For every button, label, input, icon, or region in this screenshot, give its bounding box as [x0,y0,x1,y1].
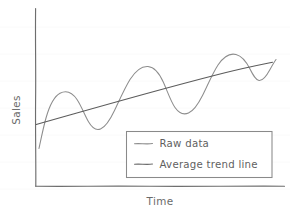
legend: Raw data Average trend line [127,132,273,178]
legend-label-raw-data: Raw data [160,138,210,149]
legend-label-trend-line: Average trend line [160,159,258,170]
chart-container: Raw data Average trend line Sales Time [0,0,290,211]
chart-canvas: Raw data Average trend line Sales Time [0,0,290,211]
y-axis-label: Sales [10,95,22,125]
x-axis-label: Time [145,195,173,207]
